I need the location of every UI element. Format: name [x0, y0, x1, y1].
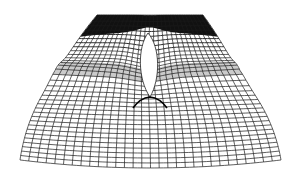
mesh-column-line	[161, 15, 177, 168]
lens-slit	[140, 33, 157, 97]
mesh-surface	[0, 0, 289, 183]
mesh-column-line	[175, 15, 212, 166]
mesh-column-line	[168, 15, 194, 167]
mesh-column-line	[124, 15, 139, 168]
mesh-column-line	[107, 15, 132, 167]
mesh-column-line	[164, 15, 185, 167]
wireframe-surface-figure: 3D wireframe mesh surface with a lens-sh…	[0, 0, 289, 183]
